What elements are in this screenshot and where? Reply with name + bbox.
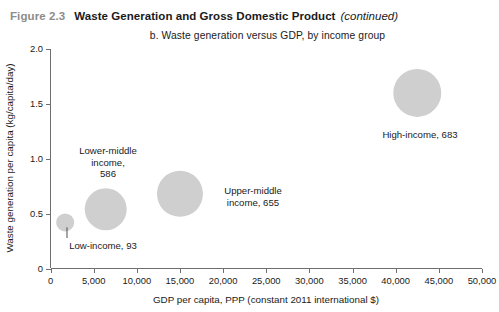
bubble-labels-group: Low-income, 93Lower-middleincome,586Uppe… (67, 129, 458, 251)
bubble-label-line: Lower-middle (79, 145, 137, 156)
figure-container: Figure 2.3Waste Generation and Gross Dom… (0, 0, 499, 312)
bubble-label: High-income, 683 (382, 129, 457, 140)
scatter-plot: 00.51.01.52.0 05,00010,00015,00020,00025… (0, 0, 499, 312)
y-tick-label: 1.5 (30, 98, 43, 109)
bubble-lower-middle-income (85, 188, 127, 230)
x-tick-label: 45,000 (425, 275, 454, 286)
bubble-label-line: income, 655 (227, 197, 279, 208)
bubble-label: Low-income, 93 (69, 240, 137, 251)
x-tick-label: 40,000 (381, 275, 410, 286)
bubble-label-line: Low-income, 93 (69, 240, 137, 251)
x-tick-label: 25,000 (252, 275, 281, 286)
bubble-label-line: 586 (100, 168, 116, 179)
y-tick-label: 1.0 (30, 153, 43, 164)
y-tick-label: 2.0 (30, 43, 43, 54)
bubble-label: Upper-middleincome, 655 (224, 185, 282, 208)
bubble-label: Lower-middleincome,586 (79, 145, 137, 179)
x-tick-label: 15,000 (166, 275, 195, 286)
y-axis-title: Waste generation per capita (kg/capita/d… (4, 63, 15, 252)
x-axis-ticks: 05,00010,00015,00020,00025,00030,00035,0… (48, 269, 496, 287)
x-tick-label: 30,000 (295, 275, 324, 286)
y-tick-label: 0.5 (30, 208, 43, 219)
x-tick-label: 5,000 (82, 275, 105, 286)
bubble-label-line: income, (91, 157, 125, 168)
x-tick-label: 20,000 (209, 275, 238, 286)
y-tick-label: 0 (38, 263, 43, 274)
x-tick-label: 10,000 (122, 275, 151, 286)
bubble-upper-middle-income (157, 171, 203, 217)
x-tick-label: 0 (48, 275, 53, 286)
x-tick-label: 50,000 (468, 275, 497, 286)
y-axis-ticks: 00.51.01.52.0 (30, 43, 51, 274)
bubble-high-income (393, 69, 441, 117)
x-tick-label: 35,000 (338, 275, 367, 286)
bubble-low-income (56, 213, 74, 231)
x-axis-title: GDP per capita, PPP (constant 2011 inter… (153, 294, 379, 305)
bubble-label-line: High-income, 683 (382, 129, 457, 140)
bubble-label-line: Upper-middle (224, 185, 282, 196)
